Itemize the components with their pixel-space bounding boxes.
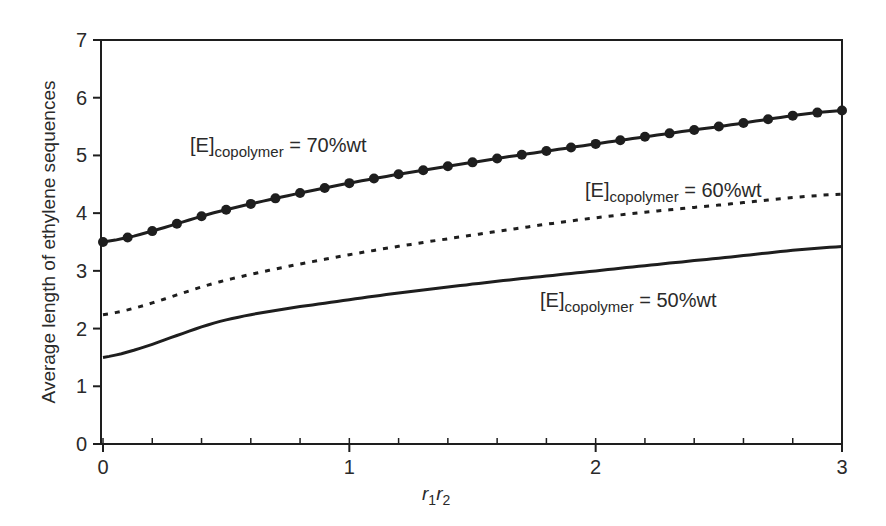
data-point-marker — [541, 146, 551, 156]
data-point-marker — [147, 226, 157, 236]
data-point-marker — [369, 174, 379, 184]
data-point-marker — [320, 183, 330, 193]
y-tick-label: 7 — [76, 29, 87, 51]
plot-frame — [101, 40, 842, 444]
data-point-marker — [566, 142, 576, 152]
x-tick-label: 0 — [97, 456, 108, 478]
y-tick-label: 1 — [76, 375, 87, 397]
y-tick-label: 5 — [76, 144, 87, 166]
data-point-marker — [468, 157, 478, 167]
data-point-marker — [689, 125, 699, 135]
x-axis-label: r1r2 — [422, 483, 450, 508]
series-label-1: [E]copolymer = 60%wt — [585, 179, 762, 205]
data-point-marker — [788, 111, 798, 121]
data-point-marker — [295, 188, 305, 198]
data-point-marker — [172, 219, 182, 229]
y-tick-label: 6 — [76, 87, 87, 109]
data-point-marker — [197, 211, 207, 221]
x-tick-label: 3 — [836, 456, 847, 478]
line-chart: 012345670123 [E]copolymer = 70%wt[E]copo… — [0, 0, 886, 526]
y-tick-label: 0 — [76, 433, 87, 455]
series-line-2 — [103, 247, 842, 358]
y-axis-label: Average length of ethylene sequences — [38, 81, 59, 404]
data-point-marker — [443, 161, 453, 171]
data-point-marker — [344, 178, 354, 188]
data-point-marker — [837, 105, 847, 115]
x-tick-label: 1 — [344, 456, 355, 478]
data-point-marker — [640, 132, 650, 142]
data-point-marker — [98, 237, 108, 247]
data-point-marker — [615, 135, 625, 145]
data-point-marker — [418, 165, 428, 175]
data-point-marker — [738, 118, 748, 128]
axes: 012345670123 — [76, 29, 848, 478]
data-point-marker — [246, 199, 256, 209]
data-point-marker — [714, 122, 724, 132]
data-point-marker — [591, 139, 601, 149]
data-point-marker — [763, 114, 773, 124]
series-label-0: [E]copolymer = 70%wt — [190, 134, 367, 160]
data-point-marker — [394, 169, 404, 179]
data-point-marker — [492, 153, 502, 163]
data-point-marker — [517, 150, 527, 160]
data-point-marker — [123, 233, 133, 243]
y-tick-label: 4 — [76, 202, 87, 224]
y-tick-label: 3 — [76, 260, 87, 282]
data-point-marker — [665, 128, 675, 138]
series-line-0 — [103, 110, 842, 242]
data-point-marker — [270, 193, 280, 203]
x-tick-label: 2 — [590, 456, 601, 478]
series-label-2: [E]copolymer = 50%wt — [540, 289, 717, 315]
y-tick-label: 2 — [76, 318, 87, 340]
data-point-marker — [812, 108, 822, 118]
data-point-marker — [221, 205, 231, 215]
